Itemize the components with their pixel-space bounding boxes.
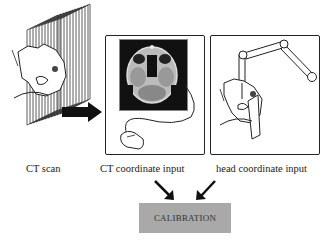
calibration-label: CALIBRATION	[154, 213, 216, 223]
label-head-coordinate-input: head coordinate input	[216, 163, 307, 174]
digitizer-arm-illustration	[210, 35, 320, 155]
calibration-box: CALIBRATION	[139, 203, 231, 233]
arrow-right-icon	[60, 102, 110, 122]
mouse-icon[interactable]	[105, 35, 205, 155]
label-ct-coordinate-input: CT coordinate input	[100, 163, 184, 174]
label-ct-scan: CT scan	[26, 163, 61, 174]
